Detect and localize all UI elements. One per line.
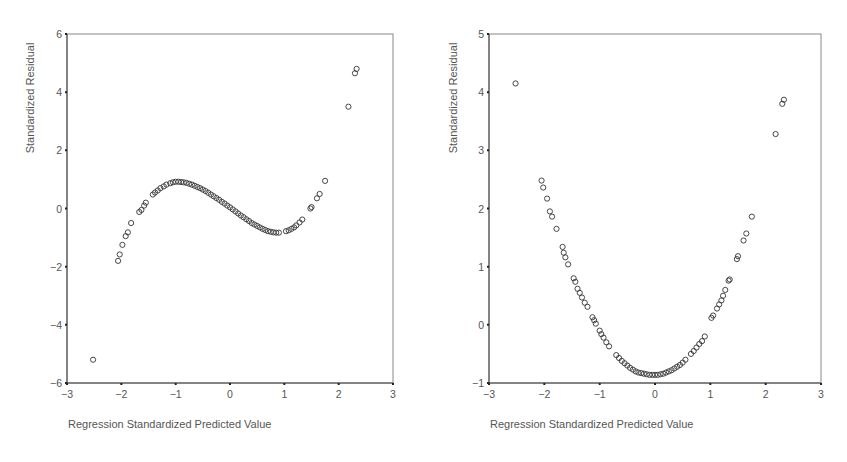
y-tick-label: 4 xyxy=(56,86,62,98)
y-tick-label: −4 xyxy=(50,319,62,331)
x-axis-label: Regression Standardized Predicted Value xyxy=(68,418,271,430)
y-tick-label: 4 xyxy=(478,86,484,98)
x-tick-label: 3 xyxy=(390,388,396,400)
data-point-marker xyxy=(566,262,571,267)
data-point-marker xyxy=(773,131,778,136)
x-tick-label: −1 xyxy=(170,388,182,400)
data-point-marker xyxy=(129,220,134,225)
x-tick-label: −3 xyxy=(483,388,495,400)
data-point-marker xyxy=(694,345,699,350)
y-tick-label: 3 xyxy=(478,144,484,156)
x-tick-label: 1 xyxy=(281,388,287,400)
data-point-marker xyxy=(322,178,327,183)
x-tick-label: 2 xyxy=(763,388,769,400)
x-tick-label: 0 xyxy=(652,388,658,400)
x-tick-label: 2 xyxy=(336,388,342,400)
y-tick-label: 0 xyxy=(56,203,62,215)
x-tick-label: 3 xyxy=(818,388,824,400)
y-tick-label: 2 xyxy=(56,144,62,156)
data-point-marker xyxy=(720,293,725,298)
data-point-marker xyxy=(606,344,611,349)
data-point-marker xyxy=(563,255,568,260)
data-point-marker xyxy=(120,242,125,247)
y-axis-label: Standardized Residual xyxy=(447,43,459,154)
data-point-marker xyxy=(115,258,120,263)
x-tick-label: −3 xyxy=(61,388,73,400)
plot-frame xyxy=(489,34,821,383)
data-point-marker xyxy=(744,231,749,236)
y-tick-label: −2 xyxy=(50,261,62,273)
data-point-marker xyxy=(539,178,544,183)
data-point-marker xyxy=(741,238,746,243)
data-point-marker xyxy=(513,81,518,86)
chart-canvas: −6−4−20246 −3−2−10123 Standardized Resid… xyxy=(0,0,847,462)
x-ticks: −3−2−10123 xyxy=(483,383,824,400)
data-point-marker xyxy=(90,357,95,362)
data-point-marker xyxy=(346,104,351,109)
x-axis-label: Regression Standardized Predicted Value xyxy=(490,418,693,430)
x-tick-label: −2 xyxy=(538,388,550,400)
data-point-marker xyxy=(585,304,590,309)
data-point-marker xyxy=(545,196,550,201)
data-point-marker xyxy=(554,226,559,231)
x-ticks: −3−2−10123 xyxy=(61,383,396,400)
y-tick-label: 2 xyxy=(478,203,484,215)
x-tick-label: −2 xyxy=(115,388,127,400)
y-tick-label: 0 xyxy=(478,319,484,331)
data-point-marker xyxy=(541,185,546,190)
y-ticks: −1012345 xyxy=(472,28,489,389)
data-point-marker xyxy=(702,334,707,339)
y-tick-label: 5 xyxy=(478,28,484,40)
x-tick-label: 0 xyxy=(227,388,233,400)
data-point-marker xyxy=(317,191,322,196)
x-tick-label: 1 xyxy=(707,388,713,400)
left-scatter-plot: −6−4−20246 −3−2−10123 Standardized Resid… xyxy=(24,28,396,430)
data-point-marker xyxy=(549,214,554,219)
data-points xyxy=(513,81,787,378)
right-scatter-plot: −1012345 −3−2−10123 Standardized Residua… xyxy=(447,28,824,430)
x-tick-label: −1 xyxy=(594,388,606,400)
data-point-marker xyxy=(547,209,552,214)
y-axis-label: Standardized Residual xyxy=(24,43,36,154)
data-point-marker xyxy=(309,204,314,209)
data-point-marker xyxy=(117,252,122,257)
y-ticks: −6−4−20246 xyxy=(50,28,67,389)
data-point-marker xyxy=(727,277,732,282)
data-point-marker xyxy=(749,214,754,219)
y-tick-label: 1 xyxy=(478,261,484,273)
data-point-marker xyxy=(723,287,728,292)
data-point-marker xyxy=(579,295,584,300)
data-point-marker xyxy=(560,244,565,249)
data-points xyxy=(90,66,359,362)
y-tick-label: 6 xyxy=(56,28,62,40)
